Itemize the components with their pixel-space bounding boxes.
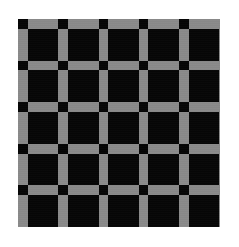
checker-square bbox=[68, 70, 99, 102]
checker-node bbox=[18, 144, 28, 154]
checker-node bbox=[179, 185, 189, 195]
checker-square bbox=[189, 112, 220, 144]
checker-node bbox=[18, 102, 28, 112]
checker-node bbox=[58, 102, 68, 112]
checker-node bbox=[220, 185, 221, 195]
checker-square bbox=[189, 154, 220, 186]
checker-node bbox=[220, 61, 221, 71]
checker-square bbox=[148, 195, 179, 227]
checker-square bbox=[189, 29, 220, 61]
checker-square bbox=[148, 112, 179, 144]
calibration-pattern-image bbox=[0, 0, 239, 247]
checker-square bbox=[68, 112, 99, 144]
checker-node bbox=[139, 144, 149, 154]
checker-node bbox=[99, 144, 109, 154]
checker-node bbox=[179, 144, 189, 154]
checker-node bbox=[139, 185, 149, 195]
checker-node bbox=[99, 19, 109, 29]
checker-node bbox=[220, 102, 221, 112]
checker-square bbox=[28, 195, 59, 227]
checkerboard-board bbox=[18, 19, 220, 227]
checker-square bbox=[108, 29, 139, 61]
checker-square bbox=[68, 29, 99, 61]
checker-square bbox=[148, 70, 179, 102]
checker-square bbox=[108, 195, 139, 227]
checker-node bbox=[99, 185, 109, 195]
checker-square bbox=[108, 112, 139, 144]
checker-square bbox=[148, 29, 179, 61]
checker-square bbox=[28, 112, 59, 144]
checker-node bbox=[58, 144, 68, 154]
checker-node bbox=[179, 19, 189, 29]
checker-node bbox=[139, 61, 149, 71]
checker-square bbox=[28, 154, 59, 186]
checker-square bbox=[68, 195, 99, 227]
checker-node bbox=[179, 102, 189, 112]
checker-node bbox=[58, 185, 68, 195]
checker-node bbox=[99, 61, 109, 71]
checker-node bbox=[179, 61, 189, 71]
checker-node bbox=[220, 144, 221, 154]
checker-node bbox=[18, 61, 28, 71]
checker-node bbox=[220, 19, 221, 29]
checker-square bbox=[28, 29, 59, 61]
checker-node bbox=[18, 185, 28, 195]
checker-square bbox=[189, 70, 220, 102]
checker-node bbox=[58, 19, 68, 29]
checker-square bbox=[189, 195, 220, 227]
checker-square bbox=[108, 154, 139, 186]
checker-node bbox=[58, 61, 68, 71]
checker-node bbox=[139, 19, 149, 29]
checker-square bbox=[108, 70, 139, 102]
checker-node bbox=[18, 19, 28, 29]
checker-square bbox=[28, 70, 59, 102]
checker-node bbox=[139, 102, 149, 112]
checker-node bbox=[99, 102, 109, 112]
checker-square bbox=[148, 154, 179, 186]
checker-square bbox=[68, 154, 99, 186]
